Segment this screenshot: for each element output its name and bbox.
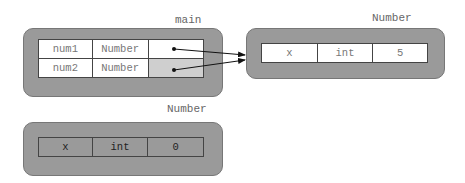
reference-arrows — [0, 0, 465, 183]
arrow-num2-icon — [174, 60, 245, 70]
arrow-num1-icon — [174, 49, 245, 55]
memory-diagram: main num1 Number num2 Number Number x in… — [0, 0, 465, 183]
